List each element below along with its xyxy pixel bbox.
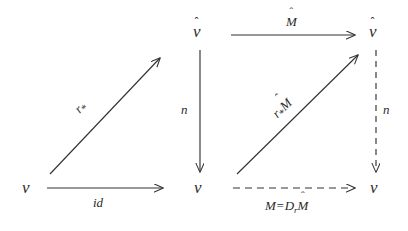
- edge-label-M-hat: ˆM: [286, 14, 297, 28]
- hat-accent-icon: ˆ: [301, 190, 305, 201]
- script-v-glyph: ᴠ: [194, 179, 201, 196]
- hat-accent-icon: ˆ: [195, 16, 199, 28]
- node-right-bottom-V: ᴠ: [370, 179, 377, 196]
- hat-accent-icon: ˆ: [371, 16, 375, 28]
- arrow-right-diagonal-r-star-M-hat: [237, 55, 358, 174]
- edge-label-M-equals-Dr-M-hat: M=DrˆM: [265, 198, 308, 215]
- id-text: id: [93, 195, 103, 210]
- script-v-glyph: ˆᴠ: [369, 23, 376, 40]
- M-lhs-text: M: [265, 198, 276, 213]
- edge-label-n-middle: n: [181, 103, 188, 116]
- script-v-glyph: ˆᴠ: [193, 23, 200, 40]
- n-text: n: [181, 102, 188, 117]
- diagram-arrows-layer: [0, 0, 408, 231]
- arrow-left-diagonal-r-star: [50, 58, 160, 174]
- diagram-canvas: ᴠ ˆᴠ ᴠ ˆᴠ ᴠ id r* n ˆM r*ˆM n M=DrˆM: [0, 0, 408, 231]
- node-mid-top-V-hat: ˆᴠ: [193, 23, 200, 40]
- D-text: D: [285, 198, 294, 213]
- n-text: n: [383, 102, 390, 117]
- M-hat-group: ˆM: [298, 198, 309, 212]
- edge-label-n-right: n: [383, 103, 390, 116]
- edge-label-id: id: [93, 196, 103, 209]
- hat-accent-icon: ˆ: [290, 6, 294, 17]
- node-right-top-V-hat: ˆᴠ: [369, 23, 376, 40]
- script-v-glyph: ᴠ: [370, 179, 377, 196]
- equals-sign: =: [276, 198, 285, 213]
- script-v-glyph: ᴠ: [22, 179, 29, 196]
- node-left-bottom-V: ᴠ: [22, 179, 29, 196]
- M-hat-group: ˆM: [286, 14, 297, 28]
- node-mid-bottom-V: ᴠ: [194, 179, 201, 196]
